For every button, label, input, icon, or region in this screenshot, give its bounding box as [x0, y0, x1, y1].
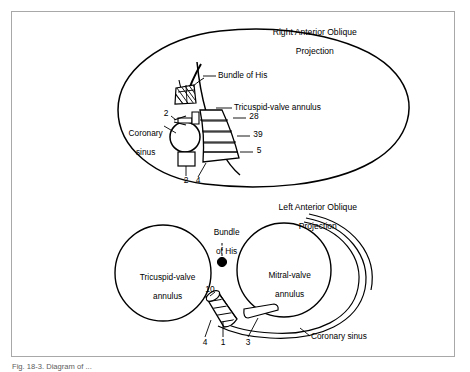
lao-value-top-segment: 10 — [203, 285, 217, 294]
figure-border — [11, 11, 455, 357]
figure-stage: Right Anterior Oblique Projection Bundle… — [0, 0, 470, 372]
lao-label-tricuspid-annulus: Tricuspid-valve annulus — [120, 264, 206, 310]
lao-label-mitral-annulus: Mitral-valve annulus — [250, 262, 320, 308]
lao-title-line1: Left Anterior Oblique — [279, 202, 357, 212]
lao-bundle-line1: Bundle — [214, 227, 240, 237]
lao-tricuspid-line1: Tricuspid-valve — [140, 272, 195, 282]
lao-mitral-line1: Mitral-valve — [268, 270, 310, 280]
lao-tricuspid-line2: annulus — [153, 291, 182, 301]
lao-label-bundle-of-his: Bundle of His — [198, 219, 246, 265]
lao-label-coronary-sinus: Coronary sinus — [311, 332, 367, 341]
rao-value-band-bottom: 5 — [254, 146, 264, 155]
rao-title-line2: Projection — [296, 46, 334, 56]
rao-value-upper-left: 2 — [161, 109, 171, 118]
rao-label-bundle-of-his: Bundle of His — [218, 71, 267, 80]
rao-value-lower-left: 2 — [181, 176, 191, 185]
rao-label-coronary-sinus: Coronary sinus — [118, 120, 164, 166]
rao-value-band-middle: 39 — [251, 130, 265, 139]
rao-title-line1: Right Anterior Oblique — [273, 27, 357, 37]
lao-bundle-line2: of His — [216, 246, 237, 256]
rao-panel-title: Right Anterior Oblique Projection — [235, 18, 385, 66]
lao-value-seg-c: 3 — [243, 338, 253, 347]
rao-coronary-sinus-line2: sinus — [136, 147, 155, 157]
rao-label-tricuspid-valve-annulus: Tricuspid-valve annulus — [234, 103, 321, 112]
lao-value-seg-a: 4 — [200, 338, 210, 347]
lao-title-line2: Projection — [299, 221, 337, 231]
rao-value-band-top: 28 — [247, 112, 261, 121]
rao-value-lower-right: 4 — [193, 176, 203, 185]
rao-coronary-sinus-line1: Coronary — [129, 128, 163, 138]
lao-panel-title: Left Anterior Oblique Projection — [243, 193, 383, 241]
figure-caption: Fig. 18-3. Diagram of ... — [12, 362, 92, 371]
lao-value-seg-b: 1 — [218, 338, 228, 347]
lao-mitral-line2: annulus — [275, 289, 304, 299]
